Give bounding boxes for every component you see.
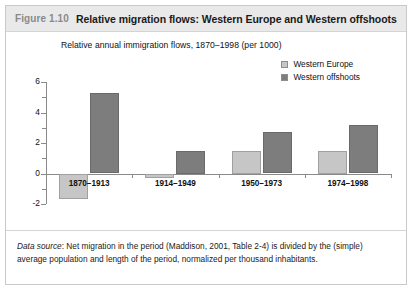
- bar-western-offshoots-1914–1949: [176, 151, 205, 174]
- chart-title: Relative annual immigration flows, 1870–…: [61, 40, 282, 50]
- legend-swatch-western-europe: [281, 61, 288, 68]
- chart-area: Relative annual immigration flows, 1870–…: [6, 32, 407, 230]
- figure-container: Figure 1.10 Relative migration flows: We…: [5, 5, 407, 285]
- legend-item-western-offshoots: Western offshoots: [281, 72, 360, 82]
- x-axis-category-label: 1974–1998: [327, 179, 368, 188]
- x-axis-tick: [219, 174, 220, 178]
- source-line-1: : Net migration in the period (Maddison,…: [62, 241, 363, 251]
- legend-label-western-europe: Western Europe: [293, 59, 353, 69]
- x-axis-category-label: 1950–1973: [241, 179, 282, 188]
- figure-title: Relative migration flows: Western Europe…: [76, 13, 397, 25]
- source-note: Data source: Net migration in the period…: [6, 230, 407, 285]
- x-axis-tick: [132, 174, 133, 178]
- y-axis-label: 0: [20, 168, 40, 178]
- y-axis: [46, 82, 47, 204]
- bar-western-europe-1974–1998: [318, 151, 347, 174]
- y-axis-label: 6: [20, 76, 40, 86]
- x-axis-category-label: 1914–1949: [155, 179, 196, 188]
- bar-western-offshoots-1950–1973: [263, 132, 292, 173]
- y-axis-minor-tick: [42, 97, 46, 98]
- bar-western-offshoots-1974–1998: [349, 125, 378, 173]
- bar-western-offshoots-1870–1913: [90, 93, 119, 174]
- y-axis-label: 4: [20, 107, 40, 117]
- y-axis-minor-tick: [42, 128, 46, 129]
- bar-western-europe-1950–1973: [232, 151, 261, 174]
- y-axis-tick: [41, 204, 46, 205]
- y-axis-label: 2: [20, 137, 40, 147]
- source-line-2: average population and length of the per…: [17, 253, 394, 266]
- y-axis-tick: [41, 82, 46, 83]
- y-axis-minor-tick: [42, 189, 46, 190]
- x-axis-tick: [391, 174, 392, 178]
- x-axis-category-label: 1870–1913: [69, 179, 110, 188]
- figure-number: Figure 1.10: [15, 13, 69, 24]
- source-prefix: Data source: [17, 241, 62, 251]
- y-axis-minor-tick: [42, 158, 46, 159]
- legend-label-western-offshoots: Western offshoots: [293, 72, 360, 82]
- y-axis-tick: [41, 113, 46, 114]
- y-axis-tick: [41, 143, 46, 144]
- x-axis-tick: [305, 174, 306, 178]
- legend-swatch-western-offshoots: [281, 74, 288, 81]
- figure-header: Figure 1.10 Relative migration flows: We…: [6, 6, 406, 32]
- plot-region: -202461870–19131914–19491950–19731974–19…: [46, 82, 391, 204]
- chart-legend: Western Europe Western offshoots: [281, 59, 360, 82]
- legend-item-western-europe: Western Europe: [281, 59, 360, 69]
- bar-western-europe-1914–1949: [145, 174, 174, 179]
- y-axis-label: -2: [20, 198, 40, 208]
